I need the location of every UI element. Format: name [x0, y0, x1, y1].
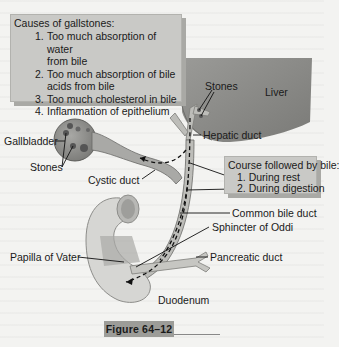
figure-caption: Figure 64–12: [104, 321, 174, 337]
cause-item: 3.Too much cholesterol in bile: [35, 93, 181, 106]
cause-item: acids from bile: [35, 80, 181, 93]
cause-item: 4.Inflammation of epithelium: [35, 105, 181, 118]
label-cystic-duct: Cystic duct: [88, 174, 139, 186]
course-title: Course followed by bile:: [228, 159, 339, 171]
label-stones-top: Stones: [205, 80, 238, 92]
caption-rule: [174, 334, 220, 335]
label-stones-left: Stones: [30, 161, 63, 173]
causes-of-gallstones-box: Causes of gallstones: 1.Too much absorpt…: [10, 14, 182, 102]
label-gallbladder: Gallbladder: [4, 135, 58, 147]
cause-item: 1.Too much absorption of water: [35, 30, 181, 55]
cause-item: 2.Too much absorption of bile: [35, 68, 181, 81]
causes-list: 1.Too much absorption of water from bile…: [35, 30, 181, 118]
label-pancreatic-duct: Pancreatic duct: [210, 251, 282, 263]
label-papilla-of-vater: Papilla of Vater: [10, 251, 80, 263]
label-sphincter-of-oddi: Sphincter of Oddi: [212, 221, 293, 233]
course-followed-by-bile-box: Course followed by bile: 1. During rest …: [224, 156, 317, 194]
course-item-digestion: 2. During digestion: [237, 182, 325, 194]
label-common-bile-duct: Common bile duct: [232, 207, 317, 219]
cause-item: from bile: [35, 55, 181, 68]
causes-title: Causes of gallstones:: [14, 17, 114, 29]
gallbladder-shape: [54, 119, 96, 161]
label-duodenum: Duodenum: [158, 294, 209, 306]
label-hepatic-duct: Hepatic duct: [203, 129, 261, 141]
label-liver: Liver: [265, 86, 288, 98]
